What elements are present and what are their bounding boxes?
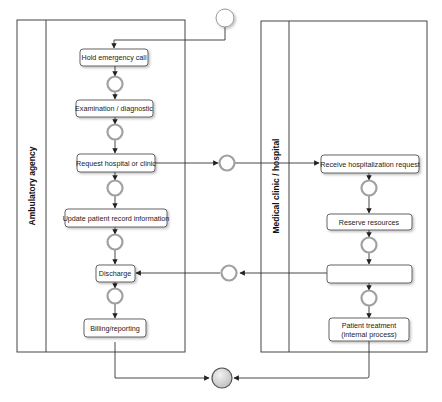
task-request-hospital[interactable]: Request hospital or clinic <box>76 154 156 172</box>
task-label: Request hospital or clinic <box>76 159 156 168</box>
intermediate-event[interactable] <box>222 266 237 281</box>
intermediate-event[interactable] <box>362 181 377 196</box>
task-label: Hold emergency call <box>81 53 147 62</box>
pool-ambulatory-agency: Ambulatory agency <box>17 20 185 352</box>
end-event[interactable] <box>212 368 232 388</box>
task-label: Receive hospitalization request <box>320 160 420 169</box>
task-discharge[interactable]: Discharge <box>96 265 135 282</box>
pool-medical-clinic: Medical clinic / hospital <box>261 21 427 352</box>
bpmn-diagram: Ambulatory agency Medical clinic / hospi… <box>0 0 442 402</box>
intermediate-event[interactable] <box>108 235 123 250</box>
task-label: Patient treatment <box>342 321 397 330</box>
task-label: Billing/reporting <box>90 324 140 333</box>
intermediate-event[interactable] <box>108 181 123 196</box>
task-label: Examination / diagnostic <box>75 104 153 113</box>
intermediate-event[interactable] <box>108 289 123 304</box>
task-receive-hospitalization-request[interactable]: Receive hospitalization request <box>320 155 420 173</box>
task-update-patient-record[interactable]: Update patient record information <box>63 209 170 227</box>
task-patient-treatment[interactable]: Patient treatment (internal process) <box>329 318 409 341</box>
intermediate-event[interactable] <box>362 238 377 253</box>
task-label: Reserve resources <box>339 218 400 227</box>
task-hold-emergency-call[interactable]: Hold emergency call <box>80 49 148 66</box>
task-billing-reporting[interactable]: Billing/reporting <box>84 319 146 337</box>
task-reserve-resources[interactable]: Reserve resources <box>327 214 412 230</box>
intermediate-event[interactable] <box>108 125 123 140</box>
task-patient-admission[interactable] <box>327 265 412 283</box>
intermediate-event[interactable] <box>220 156 235 171</box>
task-examination-diagnostic[interactable]: Examination / diagnostic <box>75 100 153 117</box>
task-label: Update patient record information <box>63 214 170 223</box>
task-label: (internal process) <box>341 330 397 339</box>
start-event[interactable] <box>216 9 234 27</box>
pool-label-hospital: Medical clinic / hospital <box>271 139 281 234</box>
intermediate-event[interactable] <box>108 77 123 92</box>
task-label: Discharge <box>99 269 131 278</box>
intermediate-event[interactable] <box>362 291 377 306</box>
pool-label-ambulatory: Ambulatory agency <box>27 146 37 225</box>
